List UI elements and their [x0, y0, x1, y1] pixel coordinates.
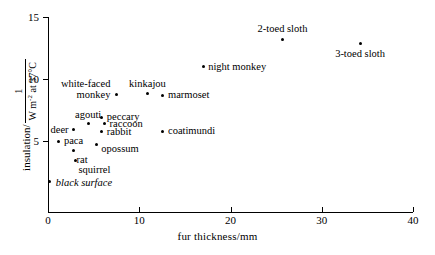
data-point-label: marmoset [168, 89, 209, 101]
x-tick-label-0: 0 [35, 215, 61, 226]
x-tick-10 [139, 207, 140, 212]
y-axis-denominator-exponent: -2 [26, 95, 34, 101]
data-point [87, 122, 90, 125]
data-point [103, 122, 106, 125]
data-point [161, 94, 164, 97]
data-point-label: kinkajou [87, 78, 207, 90]
data-point-label: opossum [101, 143, 138, 155]
data-point-label: 2-toed sloth [223, 23, 343, 35]
data-point-label: black surface [56, 177, 112, 189]
data-point-label: peccary [107, 111, 140, 123]
data-point [72, 128, 75, 131]
x-tick-label-10: 10 [126, 215, 152, 226]
x-tick-20 [231, 207, 232, 212]
x-axis-line [48, 212, 413, 213]
x-tick-label-40: 40 [400, 215, 426, 226]
x-tick-40 [413, 207, 414, 212]
y-axis-denominator-suffix: at 37°C [27, 62, 38, 95]
data-point-label: rat [77, 154, 88, 166]
x-axis-title: fur thickness/mm [0, 230, 435, 242]
data-point-label: night monkey [208, 61, 266, 73]
data-point [100, 130, 103, 133]
data-point-label: coatimundi [168, 125, 215, 137]
y-axis-fraction-numerator: 1 [14, 86, 25, 97]
y-axis-title: insulation/ 1 W m-2 at 37°C [6, 17, 46, 213]
data-point [359, 42, 362, 45]
data-point-label: 3-toed sloth [300, 48, 420, 60]
data-point-label: deer [50, 124, 68, 136]
x-tick-label-20: 20 [218, 215, 244, 226]
data-point [281, 38, 284, 41]
data-point [72, 149, 75, 152]
data-point [161, 130, 164, 133]
scatter-plot-figure: 01020304051015 black surfacesquirrelratp… [0, 0, 435, 255]
data-point [48, 180, 51, 183]
data-point [202, 65, 205, 68]
y-axis-title-prefix: insulation/ [20, 124, 32, 170]
y-axis-title-fraction: 1 W m-2 at 37°C [14, 59, 38, 123]
data-point [115, 93, 118, 96]
y-axis-denominator-unit: W m [27, 101, 38, 121]
x-tick-label-30: 30 [309, 215, 335, 226]
x-tick-30 [322, 207, 323, 212]
y-axis-fraction-denominator: W m-2 at 37°C [26, 59, 38, 123]
x-tick-0 [48, 207, 49, 212]
data-point [95, 143, 98, 146]
data-point-label: squirrel [78, 164, 110, 176]
data-point [57, 140, 60, 143]
data-point [146, 92, 149, 95]
data-point-label: paca [64, 135, 83, 147]
